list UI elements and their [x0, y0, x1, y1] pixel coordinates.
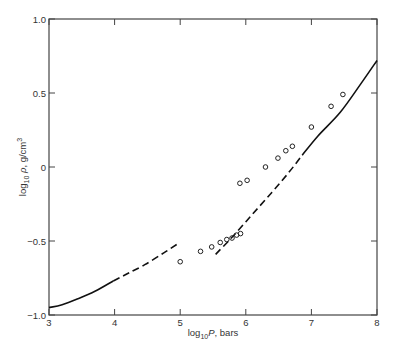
data-point	[329, 104, 334, 109]
y-tick-label: −1.0	[27, 310, 46, 321]
x-tick-label: 5	[178, 317, 183, 328]
data-point	[178, 259, 183, 264]
data-point	[238, 181, 243, 186]
tick-marks	[49, 19, 377, 315]
y-tick-label: 1.0	[33, 14, 46, 25]
x-tick-label: 8	[374, 317, 379, 328]
data-point	[224, 237, 229, 242]
chart: 345678−1.0−0.500.51.0 log10P, bars log10…	[0, 0, 393, 352]
data-points	[178, 92, 345, 264]
y-tick-label: 0	[41, 162, 46, 173]
data-point	[245, 178, 250, 183]
y-tick-label: 0.5	[33, 88, 46, 99]
data-point	[263, 165, 268, 170]
y-tick-label: −0.5	[27, 236, 46, 247]
data-point	[290, 144, 295, 149]
data-point	[284, 148, 289, 153]
x-tick-label: 3	[46, 317, 51, 328]
x-tick-label: 7	[309, 317, 314, 328]
x-tick-label: 6	[243, 317, 248, 328]
data-point	[218, 240, 223, 245]
data-point	[309, 125, 314, 130]
data-point	[276, 156, 281, 161]
x-axis-label: log10P, bars	[188, 327, 239, 340]
plot-frame	[49, 19, 377, 315]
x-tick-label: 4	[112, 317, 117, 328]
tick-labels: 345678−1.0−0.500.51.0	[27, 14, 379, 329]
y-axis-label: log10 ρ, g/cm3	[16, 138, 30, 196]
curve-theory-low-pressure-extrapolated	[113, 244, 177, 281]
data-point	[198, 249, 203, 254]
curves	[49, 60, 377, 307]
axes-frame	[49, 19, 377, 315]
curve-theory-low-pressure	[49, 281, 113, 308]
data-point	[209, 245, 214, 250]
data-point	[341, 92, 346, 97]
curve-theory-high-pressure	[302, 60, 377, 155]
